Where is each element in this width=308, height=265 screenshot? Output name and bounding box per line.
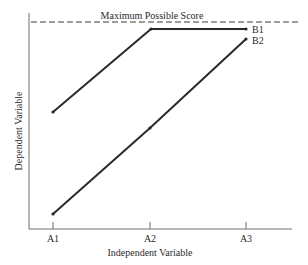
b1-point-a3 [244,27,247,30]
b2-point-a1 [51,212,54,215]
series-b1-label: B1 [252,24,264,35]
b1-point-a1 [51,110,54,113]
max-score-label: Maximum Possible Score [101,10,204,21]
interaction-diagram: A1 A2 A3 Independent Variable Dependent … [0,0,308,265]
tick-label-a2: A2 [144,233,156,244]
y-axis-label: Dependent Variable [13,91,24,171]
series-b2-label: B2 [252,35,264,46]
tick-label-a3: A3 [240,233,252,244]
b2-point-a2 [148,126,151,129]
b1-point-a2 [149,27,152,30]
tick-label-a1: A1 [47,233,59,244]
b2-point-a3 [244,37,247,40]
x-axis-label: Independent Variable [107,247,193,258]
series-b1-line [53,29,246,112]
